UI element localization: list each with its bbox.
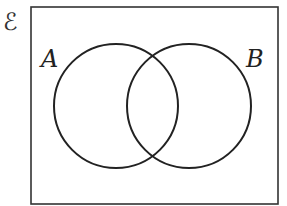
set-a-label: A bbox=[39, 45, 58, 73]
set-a-circle bbox=[54, 44, 178, 168]
set-b-circle bbox=[127, 44, 251, 168]
universal-set-label: ℰ bbox=[3, 8, 18, 36]
venn-diagram: ℰ A B bbox=[0, 0, 287, 206]
universal-set-rectangle bbox=[31, 7, 278, 204]
set-b-label: B bbox=[245, 45, 264, 73]
